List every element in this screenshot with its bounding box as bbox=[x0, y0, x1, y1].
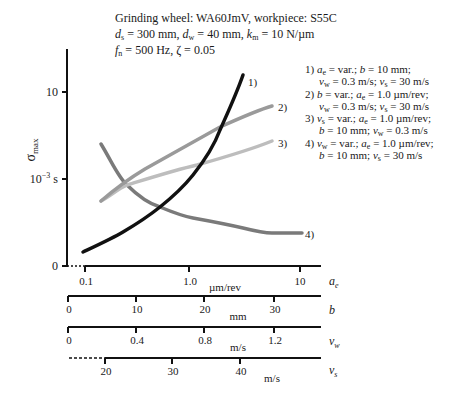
b-label: b bbox=[329, 303, 335, 317]
x-axis-vw: 0 0.4 0.8 1.2 m/s vw bbox=[66, 327, 340, 353]
b-tick: 10 bbox=[132, 303, 144, 315]
vs-tick: 30 bbox=[168, 365, 180, 377]
vw-tick: 1.2 bbox=[268, 334, 282, 346]
x-axis-b: 0 10 20 30 mm b bbox=[66, 296, 335, 322]
y-tick-10: 10 bbox=[46, 85, 58, 99]
curve-label-3: 3) bbox=[278, 137, 288, 150]
ae-unit: µm/rev bbox=[209, 281, 241, 293]
ae-tick: 0.1 bbox=[79, 275, 93, 287]
vw-tick: 0.4 bbox=[130, 334, 144, 346]
y-tick-0: 0 bbox=[52, 259, 58, 273]
b-tick: 20 bbox=[200, 303, 212, 315]
ae-label: ae bbox=[329, 274, 339, 290]
x-axis-vs: 20 30 40 m/s vs bbox=[69, 358, 337, 384]
curve-3 bbox=[101, 141, 272, 201]
vw-tick: 0.8 bbox=[198, 334, 212, 346]
curve-1 bbox=[83, 75, 243, 252]
b-unit: mm bbox=[229, 310, 247, 322]
ae-tick: 1.0 bbox=[183, 275, 197, 287]
vs-tick: 40 bbox=[236, 365, 248, 377]
y-axis-label: σmax bbox=[23, 138, 40, 162]
y-axis: 10 10−3 s 0 σmax bbox=[23, 49, 67, 273]
vw-label: vw bbox=[329, 334, 340, 350]
vw-tick: 0 bbox=[66, 334, 72, 346]
x-axis-ae: 0.1 1.0 10 µm/rev ae bbox=[67, 266, 339, 293]
vs-unit: m/s bbox=[264, 372, 280, 384]
vs-tick: 20 bbox=[101, 365, 113, 377]
vw-unit: m/s bbox=[230, 341, 246, 353]
vs-label: vs bbox=[329, 363, 337, 379]
b-tick: 0 bbox=[66, 303, 72, 315]
curve-label-1: 1) bbox=[248, 76, 258, 89]
b-tick: 30 bbox=[270, 303, 282, 315]
ae-tick: 10 bbox=[295, 275, 307, 287]
curve-label-2: 2) bbox=[278, 101, 288, 114]
curve-label-4: 4) bbox=[305, 228, 315, 241]
y-tick-unit: 10−3 s bbox=[30, 171, 59, 186]
curve-4 bbox=[101, 144, 302, 233]
plot-area: 10 10−3 s 0 σmax 0.1 1.0 10 µm/rev ae 0 … bbox=[0, 0, 451, 400]
